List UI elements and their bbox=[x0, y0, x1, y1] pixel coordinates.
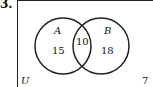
set-a-only-value: 15 bbox=[52, 46, 65, 56]
universe-label: U bbox=[21, 76, 29, 86]
set-a-label: A bbox=[54, 26, 61, 36]
set-b-label: B bbox=[104, 26, 111, 36]
set-b-only-value: 18 bbox=[101, 46, 114, 56]
intersection-value: 10 bbox=[76, 37, 89, 47]
outside-value: 7 bbox=[142, 76, 148, 86]
